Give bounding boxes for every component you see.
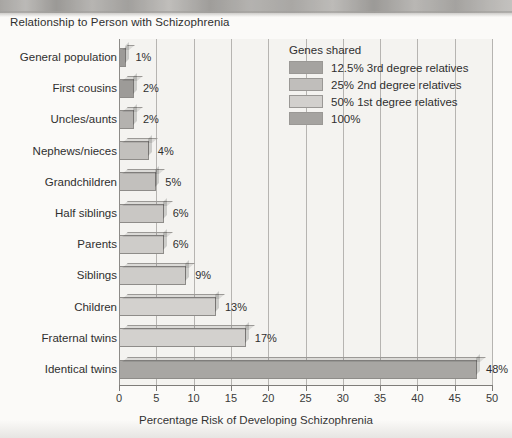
legend-label-0: 12.5% 3rd degree relatives <box>331 62 468 74</box>
bar-9 <box>119 328 246 347</box>
tick-label-20: 20 <box>262 392 274 404</box>
legend-row-1: 25% 2nd degree relatives <box>289 78 489 91</box>
gridline-50 <box>492 39 493 385</box>
tick-5 <box>156 386 157 391</box>
tick-label-15: 15 <box>225 392 237 404</box>
category-label-1: First cousins <box>5 82 117 94</box>
legend: Genes shared 12.5% 3rd degree relatives2… <box>289 44 489 129</box>
bar-top-face-9 <box>122 325 255 330</box>
bar-2 <box>119 110 134 129</box>
bar-value-label-1: 2% <box>143 82 159 94</box>
tick-label-45: 45 <box>449 392 461 404</box>
scan-artifact-bottom <box>0 420 512 438</box>
bar-side-face-1 <box>133 73 137 94</box>
category-label-8: Children <box>5 301 117 313</box>
bar-6 <box>119 235 164 254</box>
bar-value-label-0: 1% <box>135 51 151 63</box>
legend-row-0: 12.5% 3rd degree relatives <box>289 61 489 74</box>
legend-swatch-3 <box>289 112 323 125</box>
category-label-4: Grandchildren <box>5 176 117 188</box>
bar-5 <box>119 204 164 223</box>
legend-swatch-2 <box>289 95 323 108</box>
category-label-6: Parents <box>5 238 117 250</box>
tick-label-35: 35 <box>374 392 386 404</box>
bar-4 <box>119 172 156 191</box>
tick-label-10: 10 <box>187 392 199 404</box>
bar-value-label-4: 5% <box>165 176 181 188</box>
tick-25 <box>306 386 307 391</box>
bar-value-label-6: 6% <box>173 238 189 250</box>
category-label-0: General population <box>5 51 117 63</box>
tick-label-50: 50 <box>486 392 498 404</box>
bar-side-face-6 <box>163 229 167 250</box>
bar-value-label-8: 13% <box>225 301 247 313</box>
tick-0 <box>119 386 120 391</box>
bar-1 <box>119 79 134 98</box>
tick-50 <box>492 386 493 391</box>
category-label-7: Siblings <box>5 269 117 281</box>
tick-label-40: 40 <box>411 392 423 404</box>
bar-value-label-7: 9% <box>195 269 211 281</box>
bar-0 <box>119 48 126 67</box>
tick-30 <box>343 386 344 391</box>
legend-entries: 12.5% 3rd degree relatives25% 2nd degree… <box>289 61 489 125</box>
tick-label-25: 25 <box>299 392 311 404</box>
category-label-5: Half siblings <box>5 207 117 219</box>
bar-value-label-3: 4% <box>158 145 174 157</box>
bar-value-label-9: 17% <box>255 332 277 344</box>
tick-label-5: 5 <box>153 392 159 404</box>
y-axis-category-labels: General populationFirst cousinsUncles/au… <box>0 0 117 438</box>
tick-40 <box>417 386 418 391</box>
legend-swatch-1 <box>289 78 323 91</box>
bar-top-face-3 <box>122 138 158 143</box>
tick-15 <box>231 386 232 391</box>
legend-row-3: 100% <box>289 112 489 125</box>
bar-10 <box>119 360 477 379</box>
legend-label-3: 100% <box>331 113 360 125</box>
tick-label-30: 30 <box>337 392 349 404</box>
bar-8 <box>119 297 216 316</box>
legend-label-2: 50% 1st degree relatives <box>331 96 458 108</box>
category-label-3: Nephews/nieces <box>5 145 117 157</box>
tick-45 <box>455 386 456 391</box>
category-label-2: Uncles/aunts <box>5 113 117 125</box>
legend-swatch-0 <box>289 61 323 74</box>
bar-top-face-8 <box>122 294 225 299</box>
legend-title: Genes shared <box>289 44 489 56</box>
bar-side-face-5 <box>163 198 167 219</box>
tick-35 <box>380 386 381 391</box>
bar-value-label-10: 48% <box>486 363 508 375</box>
bar-7 <box>119 266 186 285</box>
bar-value-label-5: 6% <box>173 207 189 219</box>
bar-value-label-2: 2% <box>143 113 159 125</box>
tick-10 <box>194 386 195 391</box>
bar-3 <box>119 141 149 160</box>
legend-label-1: 25% 2nd degree relatives <box>331 79 461 91</box>
category-label-10: Identical twins <box>5 363 117 375</box>
tick-20 <box>268 386 269 391</box>
legend-row-2: 50% 1st degree relatives <box>289 95 489 108</box>
category-label-9: Fraternal twins <box>5 332 117 344</box>
bar-top-face-10 <box>122 357 486 362</box>
bar-side-face-10 <box>476 354 480 375</box>
